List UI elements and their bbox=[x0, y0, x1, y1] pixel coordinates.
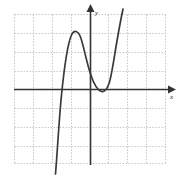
coordinate-plane-graph: y x bbox=[0, 0, 180, 178]
graph-screenshot: y x bbox=[0, 0, 180, 178]
